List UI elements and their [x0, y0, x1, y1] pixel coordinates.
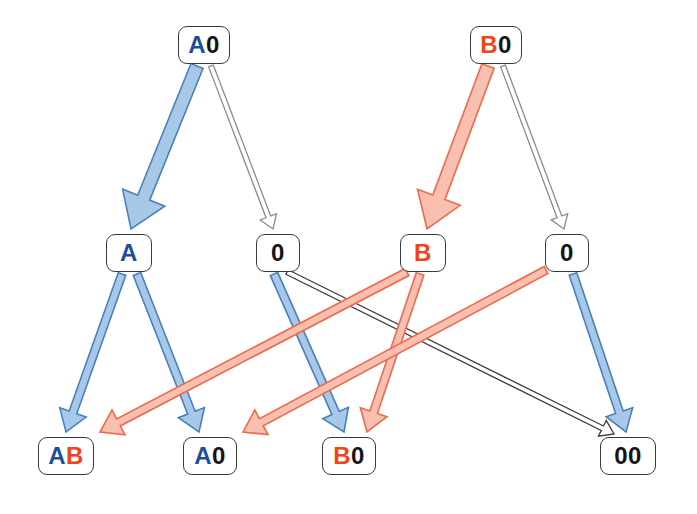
- node-label-char: B: [66, 442, 84, 470]
- node-n_a0_bot[interactable]: A0: [183, 437, 237, 475]
- node-label-char: A: [194, 442, 212, 470]
- node-label-char: 0: [628, 442, 642, 470]
- node-label-char: 0: [498, 31, 512, 59]
- node-n_ab_bot[interactable]: AB: [38, 437, 94, 475]
- node-label-char: 0: [271, 239, 285, 267]
- node-label-char: 0: [560, 239, 574, 267]
- node-n_b0_bot[interactable]: B0: [322, 437, 376, 475]
- node-label-char: A: [48, 442, 66, 470]
- node-n_00_bot[interactable]: 00: [600, 437, 656, 475]
- node-label-char: 0: [212, 442, 226, 470]
- edge-e_0right_to_00bot: [569, 273, 632, 432]
- node-label-char: 0: [206, 31, 220, 59]
- node-n_a_mid[interactable]: A: [106, 234, 152, 272]
- node-label-char: B: [480, 31, 498, 59]
- node-n_a0_top[interactable]: A0: [178, 26, 230, 64]
- node-label-char: A: [120, 239, 138, 267]
- node-label-char: 0: [351, 442, 365, 470]
- edge-e_a0_to_a: [123, 64, 203, 229]
- node-label-char: 0: [614, 442, 628, 470]
- node-n_0_mid_left[interactable]: 0: [256, 234, 300, 272]
- edge-e_0right_to_a0_area: [243, 266, 548, 434]
- node-label-char: A: [188, 31, 206, 59]
- edge-e_a_to_ab: [60, 273, 126, 432]
- node-label-char: B: [333, 442, 351, 470]
- edge-e_a0_to_0left: [209, 65, 277, 229]
- node-n_b_mid[interactable]: B: [400, 234, 446, 272]
- edge-e_b0_to_0right: [501, 65, 568, 229]
- node-n_b0_top[interactable]: B0: [470, 26, 522, 64]
- edge-e_b0_to_b: [418, 64, 495, 229]
- node-n_0_mid_right[interactable]: 0: [545, 234, 589, 272]
- diagram-canvas: A0B0A0B0ABA0B000: [0, 0, 697, 514]
- node-label-char: B: [414, 239, 432, 267]
